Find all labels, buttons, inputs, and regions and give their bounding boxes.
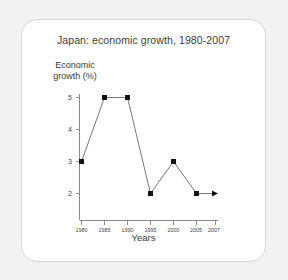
x-axis-title: Years <box>22 232 265 243</box>
x-axis-ticks <box>82 221 216 226</box>
figure-card: Japan: economic growth, 1980-2007 Econom… <box>21 19 266 262</box>
y-tick-label-0: 5 <box>68 94 72 101</box>
y-tick-label-2: 3 <box>68 158 72 165</box>
data-point-1980[interactable] <box>79 159 84 164</box>
y-tick-label-1: 4 <box>68 126 72 133</box>
data-point-2005[interactable] <box>194 191 199 196</box>
data-point-2000[interactable] <box>171 159 176 164</box>
data-point-1995[interactable] <box>148 191 153 196</box>
data-series-line <box>82 98 214 194</box>
y-axis-ticks <box>76 98 80 194</box>
data-point-1985[interactable] <box>102 95 107 100</box>
series-end-arrow-icon <box>212 191 218 197</box>
y-axis-tick-labels: 5 4 3 2 <box>68 94 72 197</box>
line-chart-plot: 5 4 3 2 1980 1985 1990 1995 2000 2005 20… <box>22 20 267 263</box>
y-tick-label-3: 2 <box>68 190 72 197</box>
data-point-1990[interactable] <box>125 95 130 100</box>
